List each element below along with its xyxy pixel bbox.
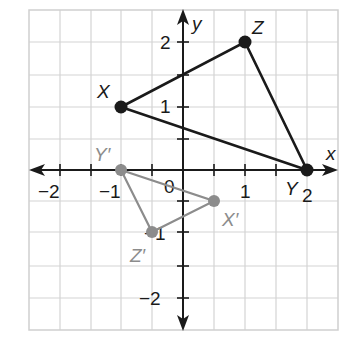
label-y-prime: Y′: [94, 144, 112, 165]
y-tick-label: −2: [139, 288, 161, 309]
vertex-y: [301, 164, 314, 177]
x-tick-label: 2: [302, 185, 313, 206]
vertex-z: [239, 36, 252, 49]
vertex-y-prime: [115, 164, 127, 176]
x-tick-label: −2: [38, 181, 60, 202]
label-z-prime: Z′: [129, 245, 147, 266]
vertex-z-prime: [146, 226, 158, 238]
label-z: Z: [251, 17, 265, 38]
label-x-prime: X′: [221, 209, 240, 230]
x-tick-label: 1: [240, 181, 251, 202]
label-y: Y: [285, 178, 299, 199]
coordinate-plane: −2 −1 1 2 2 1 −1 −2 0 x y Y′ X′ Z′ X Z Y: [0, 0, 361, 361]
y-axis-label: y: [190, 13, 203, 34]
label-x: X: [96, 81, 111, 102]
x-axis-label: x: [325, 143, 337, 164]
y-tick-label: 1: [160, 96, 171, 117]
image-triangle: Y′ X′ Z′: [94, 144, 240, 266]
vertex-x: [115, 101, 128, 114]
y-tick-label: 2: [160, 32, 171, 53]
x-tick-label: −1: [99, 181, 121, 202]
vertex-x-prime: [208, 195, 220, 207]
